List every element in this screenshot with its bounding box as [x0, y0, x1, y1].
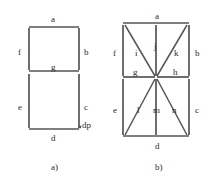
segment-label-f: f [18, 48, 21, 57]
segment-label-b: b [84, 48, 89, 57]
segment-label-e: e [113, 106, 117, 115]
segment-label-m: m [153, 106, 160, 115]
segment-label-g: g [51, 63, 56, 72]
segment-label-b: b [195, 49, 200, 58]
segment-label-h: h [173, 68, 178, 77]
figure-b-caption: b) [155, 163, 163, 172]
segment-label-l: l [137, 106, 140, 115]
segment-label-dp: dp [82, 121, 91, 130]
segment-label-d: d [155, 142, 160, 151]
segment-label-k: k [174, 49, 179, 58]
segment-label-f: f [113, 49, 116, 58]
segment-display-diagram: afbgecddpafijkbghelmncd a) b) [0, 0, 209, 185]
segment-label-a: a [155, 12, 159, 21]
segment-line-i [125, 25, 155, 76]
segment-label-a: a [51, 15, 55, 24]
segment-label-n: n [172, 106, 177, 115]
segment-label-j: j [154, 42, 157, 51]
segment-label-c: c [84, 103, 88, 112]
segment-label-c: c [195, 106, 199, 115]
segment-label-e: e [18, 103, 22, 112]
segment-label-g: g [133, 68, 138, 77]
segment-line-k [157, 25, 187, 76]
figure-a-caption: a) [51, 163, 58, 172]
segment-label-d: d [51, 134, 56, 143]
segment-line-l [125, 79, 155, 135]
diagram-canvas [0, 0, 209, 185]
decimal-point-dot [79, 126, 82, 129]
segment-label-i: i [135, 49, 138, 58]
